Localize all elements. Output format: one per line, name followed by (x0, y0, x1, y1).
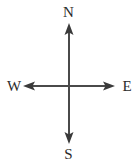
compass-diagram: N S W E (0, 0, 137, 166)
direction-label-east: E (118, 79, 136, 94)
direction-label-south: S (0, 147, 137, 162)
direction-label-north: N (0, 5, 137, 20)
direction-label-west: W (5, 79, 23, 94)
